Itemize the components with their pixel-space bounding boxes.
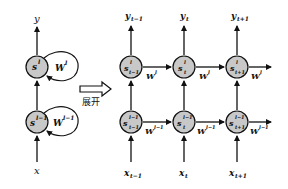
- edge-weight-sup: l: [155, 69, 157, 75]
- rnn-unfold-diagram: y s l W l s l−1 W l−1 x 展开 y t−1 s l: [0, 0, 288, 189]
- node-label-base: s: [178, 63, 183, 73]
- node-label-sup: l−1: [183, 114, 193, 120]
- node-label-sub: t−1: [129, 69, 139, 75]
- node-label-base: s: [123, 118, 128, 128]
- input-label-sub: t: [185, 172, 188, 179]
- timestep-t: y t s l t s l−1 t x t: [173, 11, 195, 179]
- output-label-sub: t−1: [131, 15, 143, 22]
- node-label-sup: l: [236, 59, 238, 65]
- input-label-sub: t+1: [235, 172, 247, 179]
- node-label-sup: l: [130, 59, 132, 65]
- output-label: y: [124, 11, 131, 21]
- diagram-canvas: y s l W l s l−1 W l−1 x 展开 y t−1 s l: [0, 0, 288, 189]
- hollow-arrow-right-icon: [80, 82, 111, 96]
- input-label: x: [123, 168, 130, 178]
- node-label-base: s: [177, 118, 182, 128]
- node-label-sub: t−1: [129, 124, 139, 130]
- input-label-sub: t−1: [130, 172, 142, 179]
- node-label-base: s: [32, 62, 37, 72]
- input-label: x: [228, 168, 235, 178]
- node-label-sub: t+1: [235, 69, 245, 75]
- lower-recurrent-edges: W l−1 W l−1 W l−1: [143, 122, 271, 136]
- weight-label-sup: l: [65, 59, 68, 66]
- input-label: x: [178, 168, 185, 178]
- output-label-sub: t+1: [237, 15, 249, 22]
- node-label-base: s: [30, 118, 35, 128]
- node-label-sub: t+1: [235, 124, 245, 130]
- unfolded-network: y t−1 s l t−1 s l−1 t−1 x t−1 y t s l t: [120, 11, 271, 179]
- unfold-label: 展开: [82, 97, 100, 107]
- input-label-x: x: [34, 165, 40, 176]
- node-label-sup: l: [184, 59, 186, 65]
- output-label: y: [230, 11, 237, 21]
- output-label: y: [179, 11, 186, 21]
- unfold-arrow: 展开: [80, 82, 111, 107]
- edge-weight-sup: l−1: [259, 124, 269, 130]
- edge-weight-sup: l: [260, 69, 262, 75]
- folded-network: y s l W l s l−1 W l−1 x: [26, 13, 78, 176]
- edge-weight-sup: l: [208, 69, 210, 75]
- output-label-y: y: [33, 13, 40, 24]
- timestep-t-plus-1: y t+1 s l t+1 s l−1 t+1 x t+1: [226, 11, 249, 179]
- weight-label-sup: l−1: [63, 114, 74, 121]
- node-label-sup: l−1: [235, 114, 245, 120]
- edge-weight-sup: l−1: [154, 124, 164, 130]
- node-label-base: s: [229, 118, 234, 128]
- upper-recurrent-edges: W l W l W l: [143, 67, 271, 81]
- output-label-sub: t: [186, 15, 189, 22]
- node-label-sup: l−1: [36, 114, 47, 121]
- edge-weight-sup: l−1: [206, 124, 216, 130]
- node-label-sup: l−1: [129, 114, 139, 120]
- timestep-t-minus-1: y t−1 s l t−1 s l−1 t−1 x t−1: [120, 11, 143, 179]
